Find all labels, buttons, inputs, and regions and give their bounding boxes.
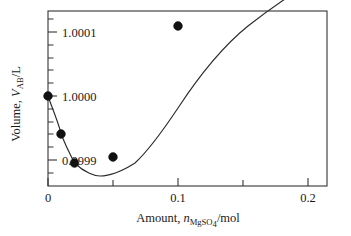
x-axis-title-prefix: Amount, — [136, 211, 183, 225]
y-axis-title: Volume, VAB/L — [9, 66, 25, 142]
data-point-2 — [70, 159, 79, 168]
x-axis-title: Amount, nMgSO4/mol — [136, 211, 240, 229]
y-axis-title-prefix: Volume, — [9, 97, 23, 142]
data-point-1 — [57, 130, 66, 139]
y-tick-label-1.0001: 1.0001 — [62, 26, 96, 40]
data-point-4 — [174, 22, 183, 31]
volume-vs-amount-chart: 1.0001 1.0000 0.9999 0 0.1 0.2 Amount, n… — [0, 0, 351, 236]
y-axis-title-subscript: AB — [15, 77, 25, 89]
y-tick-label-0.9999: 0.9999 — [62, 154, 96, 168]
chart-figure: 1.0001 1.0000 0.9999 0 0.1 0.2 Amount, n… — [0, 0, 351, 236]
y-tick-label-1.0000: 1.0000 — [62, 90, 96, 104]
x-tick-label-0: 0 — [45, 191, 51, 205]
x-axis-title-suffix: /mol — [217, 211, 240, 225]
data-point-0 — [44, 92, 53, 101]
x-tick-label-0.1: 0.1 — [170, 191, 186, 205]
x-axis-title-subscript: MgSO — [190, 217, 213, 227]
x-axis-ticks — [48, 178, 308, 186]
data-point-3 — [109, 153, 118, 162]
x-tick-label-0.2: 0.2 — [300, 191, 316, 205]
y-axis-title-suffix: /L — [9, 66, 23, 77]
